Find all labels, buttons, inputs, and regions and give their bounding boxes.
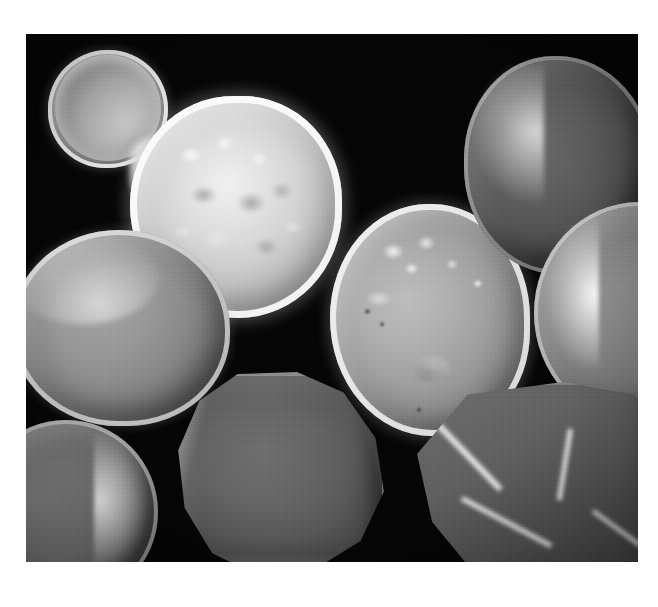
- crystal-facet-edge: [557, 428, 573, 500]
- page-root: [0, 0, 658, 607]
- crystal-facet-edge: [461, 497, 552, 549]
- particle-bottom-polyhedron: [174, 372, 386, 562]
- sem-micrograph-image: [26, 34, 638, 562]
- crystal-facet-edge: [592, 510, 638, 549]
- particle-bottom-left-sphere: [26, 420, 158, 562]
